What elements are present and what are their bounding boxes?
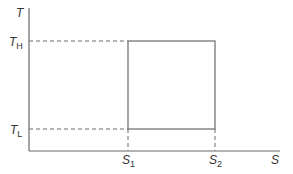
th-label: TH xyxy=(9,35,23,51)
ts-diagram: T S TH TL S1 S2 xyxy=(0,0,293,174)
s1-label: S1 xyxy=(122,153,135,169)
y-axis-label: T xyxy=(16,6,25,20)
x-axis-label: S xyxy=(271,153,279,167)
tl-label: TL xyxy=(10,123,22,139)
carnot-cycle-rectangle xyxy=(128,41,215,129)
s2-label: S2 xyxy=(209,153,222,169)
